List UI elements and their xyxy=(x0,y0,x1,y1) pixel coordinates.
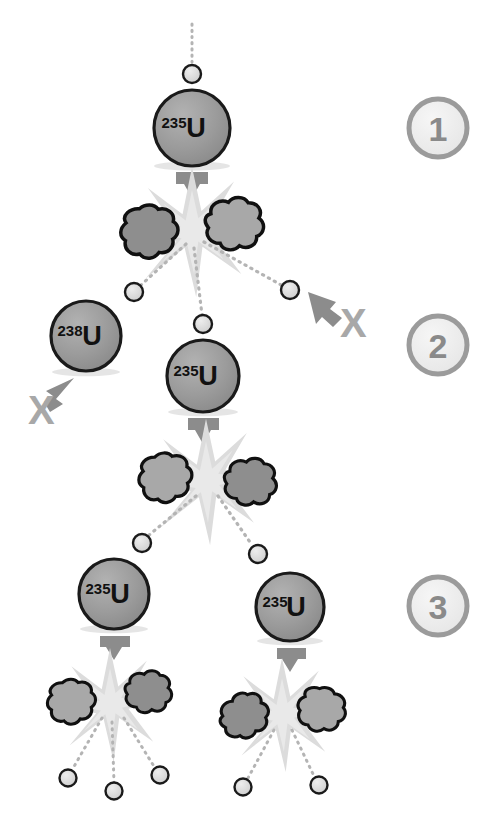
neutron-1b xyxy=(194,315,212,333)
fission-event-3-left xyxy=(44,648,176,800)
neutron-escape-arrow-right xyxy=(308,292,342,327)
x-mark-absorbed-u238: X xyxy=(28,388,55,432)
nucleus-mass-number: 235 xyxy=(161,114,186,131)
stage-marker-label: 1 xyxy=(429,110,448,148)
neutron-3c xyxy=(152,767,169,784)
nucleus-element-symbol: U xyxy=(286,592,306,622)
neutron-3a xyxy=(60,770,77,787)
nucleus-element-symbol: U xyxy=(110,579,130,609)
nucleus-u235-gen2: 235 U xyxy=(167,340,239,416)
nucleus-element-symbol: U xyxy=(82,321,102,351)
nucleus-u238-gen2: 238 U xyxy=(51,301,121,376)
fission-event-1 xyxy=(117,167,299,333)
neutron-incoming xyxy=(183,65,201,83)
stage-marker-1[interactable]: 1 xyxy=(409,99,467,157)
neutron-4b xyxy=(311,777,328,794)
neutron-1c xyxy=(281,281,299,299)
nucleus-element-symbol: U xyxy=(198,361,218,391)
nucleus-mass-number: 235 xyxy=(173,362,198,379)
nucleus-mass-number: 235 xyxy=(85,580,110,597)
fission-arrow-gen3-left xyxy=(100,636,130,660)
x-mark-escape-right: X xyxy=(340,301,367,345)
neutron-1a xyxy=(125,283,143,301)
nucleus-mass-number: 235 xyxy=(262,593,287,610)
chain-reaction-diagram: 235 U xyxy=(0,0,496,822)
neutron-3b xyxy=(106,783,123,800)
fission-chain-reaction-figure: 235 U xyxy=(0,0,496,822)
neutron-2a xyxy=(133,534,151,552)
fission-event-3-right xyxy=(215,658,350,796)
stage-marker-label: 3 xyxy=(429,588,448,626)
stage-marker-2[interactable]: 2 xyxy=(409,316,467,374)
nucleus-u235-gen3-right: 235 U xyxy=(256,573,324,645)
generation-2-group: X 238 U X 235 U xyxy=(28,292,367,444)
nucleus-u235-gen1: 235 U xyxy=(154,90,230,171)
neutron-2b xyxy=(249,545,267,563)
nucleus-mass-number: 238 xyxy=(57,322,82,339)
stage-marker-3[interactable]: 3 xyxy=(409,577,467,635)
neutron-4a xyxy=(235,779,252,796)
nucleus-element-symbol: U xyxy=(186,113,206,143)
generation-3-group: 235 U 235 U xyxy=(79,559,324,672)
fission-event-2 xyxy=(133,419,282,563)
stage-marker-label: 2 xyxy=(429,327,448,365)
nucleus-u235-gen3-left: 235 U xyxy=(79,559,149,633)
